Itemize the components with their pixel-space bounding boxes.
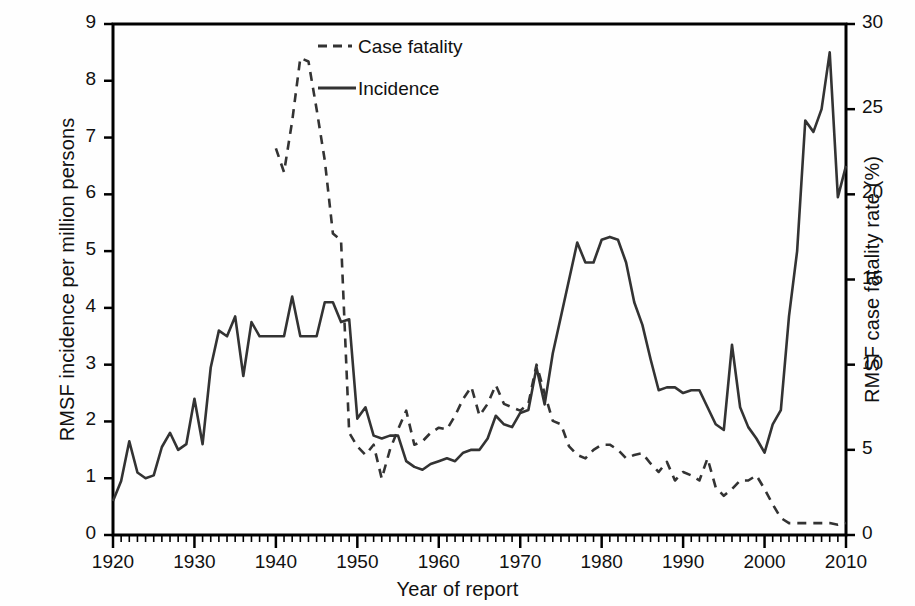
x-tick-1950: 1950 [317,551,397,573]
series-line-incidence [113,52,846,501]
x-tick-1930: 1930 [154,551,234,573]
x-tick-1980: 1980 [562,551,642,573]
x-tick-1940: 1940 [236,551,316,573]
y-left-tick-5: 5 [56,238,96,260]
y-right-tick-20: 20 [862,181,902,203]
y-left-tick-3: 3 [56,352,96,374]
y-axis-left-title: RMSF incidence per million persons [56,30,79,530]
x-tick-1990: 1990 [643,551,723,573]
legend-label-incidence: Incidence [358,78,439,100]
data-series-layer [113,52,846,524]
x-tick-1960: 1960 [399,551,479,573]
legend-label-case-fatality: Case fatality [358,36,463,58]
y-left-tick-1: 1 [56,465,96,487]
y-right-tick-0: 0 [862,522,902,544]
y-left-tick-2: 2 [56,408,96,430]
y-left-tick-6: 6 [56,181,96,203]
x-tick-2000: 2000 [725,551,805,573]
plot-frame [113,24,846,535]
x-tick-1920: 1920 [73,551,153,573]
legend-marks [318,46,356,88]
x-tick-1970: 1970 [480,551,560,573]
series-line-case-fatality [276,58,846,525]
chart-canvas [0,0,915,606]
y-left-tick-9: 9 [56,11,96,33]
chart-figure: RMSF incidence per million persons RMSF … [0,0,915,606]
y-right-tick-5: 5 [862,437,902,459]
y-right-tick-25: 25 [862,96,902,118]
x-axis-title: Year of report [0,578,915,601]
axis-ticks [104,24,855,548]
x-tick-2010: 2010 [806,551,886,573]
y-left-tick-7: 7 [56,125,96,147]
y-right-tick-10: 10 [862,352,902,374]
y-right-tick-15: 15 [862,267,902,289]
y-left-tick-8: 8 [56,68,96,90]
y-left-tick-4: 4 [56,295,96,317]
y-right-tick-30: 30 [862,11,902,33]
plot-border [113,24,846,535]
y-left-tick-0: 0 [56,522,96,544]
